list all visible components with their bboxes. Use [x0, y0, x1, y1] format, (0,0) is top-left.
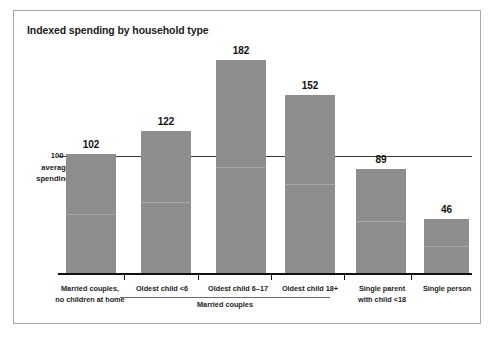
category-label-4-line1: Single parent — [346, 283, 418, 294]
reference-label-line2: average — [24, 162, 70, 174]
axis-tick — [344, 274, 345, 280]
reference-label-line3: spending — [24, 173, 70, 185]
category-label-2-line1: Oldest child 6–17 — [200, 283, 276, 294]
group-bracket-line — [120, 297, 330, 298]
reference-label-line1: 100 = — [24, 150, 70, 162]
bar-single-parent — [356, 169, 406, 273]
bar-value-1: 122 — [141, 116, 191, 127]
bar-value-2: 182 — [216, 45, 266, 56]
bar-midline — [66, 214, 116, 215]
bar-oldest-child-6-17 — [216, 60, 266, 273]
bar-oldest-child-under-6 — [141, 131, 191, 273]
bar-midline — [285, 184, 335, 185]
bar-oldest-child-18-plus — [285, 95, 335, 273]
category-label-0-line1: Married couples, — [50, 283, 130, 294]
bar-midline — [141, 202, 191, 203]
x-axis-baseline — [58, 273, 472, 275]
category-label-3-line1: Oldest child 18+ — [274, 283, 346, 294]
axis-tick — [271, 274, 272, 280]
axis-tick — [411, 274, 412, 280]
category-label-0-line2: no children at home — [50, 294, 130, 305]
bar-value-3: 152 — [285, 80, 335, 91]
bar-married-no-children — [66, 154, 116, 273]
bar-midline — [216, 167, 266, 168]
category-label-4-line2: with child <18 — [346, 294, 418, 305]
category-label-2: Oldest child 6–17 — [200, 283, 276, 294]
reference-line-label: 100 = average spending — [24, 150, 70, 185]
axis-tick — [124, 274, 125, 280]
bar-value-5: 46 — [424, 204, 469, 215]
category-label-1: Oldest child <6 — [126, 283, 198, 294]
category-label-3: Oldest child 18+ — [274, 283, 346, 294]
category-label-0: Married couples, no children at home — [50, 283, 130, 305]
chart-screenshot: Indexed spending by household type 100 =… — [0, 0, 495, 347]
category-label-4: Single parent with child <18 — [346, 283, 418, 305]
category-label-5-line1: Single person — [414, 283, 480, 294]
plot-area: 100 = average spending 102 122 182 152 8… — [0, 0, 495, 347]
category-label-5: Single person — [414, 283, 480, 294]
bar-single-person — [424, 219, 469, 273]
group-bracket-label: Married couples — [120, 300, 330, 309]
bar-value-4: 89 — [356, 154, 406, 165]
bar-midline — [356, 221, 406, 222]
bar-midline — [424, 246, 469, 247]
category-label-1-line1: Oldest child <6 — [126, 283, 198, 294]
axis-tick — [198, 274, 199, 280]
bar-value-0: 102 — [66, 139, 116, 150]
